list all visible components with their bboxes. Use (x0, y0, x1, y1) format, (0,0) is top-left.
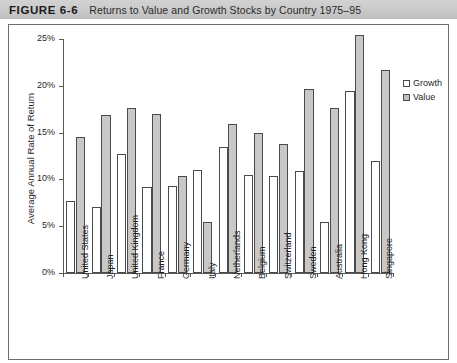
chart-plot-area: Average Annual Rate of Return Growth Val… (9, 25, 450, 361)
figure-number: FIGURE 6-6 (9, 4, 78, 16)
x-tick-mark (215, 273, 216, 277)
legend-label-growth: Growth (413, 77, 442, 89)
x-axis-label-united-kingdom: United Kingdom (130, 215, 140, 279)
legend-swatch-value-icon (403, 94, 410, 101)
bar-growth-sweden (295, 171, 304, 273)
x-tick-mark (291, 273, 292, 277)
bar-growth-united-states (66, 201, 75, 273)
bar-growth-hong-kong (345, 91, 354, 273)
x-tick-mark (114, 273, 115, 277)
legend-item-value: Value (403, 91, 442, 103)
x-tick-mark (139, 273, 140, 277)
bar-growth-singapore (371, 161, 380, 273)
bar-growth-united-kingdom (117, 154, 126, 273)
bar-growth-switzerland (269, 176, 278, 273)
y-tick-label: 20% (21, 80, 55, 90)
bar-growth-germany (168, 186, 177, 273)
chart-legend: Growth Value (403, 77, 442, 105)
x-tick-mark (266, 273, 267, 277)
bar-growth-italy (193, 170, 202, 273)
bar-growth-australia (320, 222, 329, 273)
x-tick-mark (368, 273, 369, 277)
bar-value-france (152, 114, 161, 273)
x-tick-mark (393, 273, 394, 277)
x-axis-label-netherlands: Netherlands (232, 230, 242, 279)
x-tick-mark (63, 273, 64, 277)
legend-item-growth: Growth (403, 77, 442, 89)
bar-growth-netherlands (219, 147, 228, 273)
chart-frame: Average Annual Rate of Return Growth Val… (8, 24, 449, 360)
bar-growth-japan (92, 207, 101, 273)
x-tick-mark (190, 273, 191, 277)
x-tick-mark (241, 273, 242, 277)
legend-swatch-growth-icon (403, 80, 410, 87)
x-tick-mark (342, 273, 343, 277)
y-tick-mark (59, 179, 63, 180)
y-axis-line (63, 39, 64, 273)
x-axis-label-united-states: United States (80, 225, 90, 279)
bar-value-sweden (304, 89, 313, 273)
y-tick-label: 5% (21, 220, 55, 230)
y-tick-mark (59, 86, 63, 87)
x-tick-mark (165, 273, 166, 277)
figure-container: FIGURE 6-6 Returns to Value and Growth S… (0, 0, 457, 363)
bar-growth-belgium (244, 175, 253, 273)
figure-caption-bar: FIGURE 6-6 Returns to Value and Growth S… (0, 0, 457, 19)
y-tick-label: 15% (21, 127, 55, 137)
x-tick-mark (88, 273, 89, 277)
x-tick-mark (317, 273, 318, 277)
y-tick-label: 25% (21, 33, 55, 43)
legend-label-value: Value (413, 91, 435, 103)
y-tick-label: 10% (21, 173, 55, 183)
bar-growth-france (142, 187, 151, 273)
y-tick-mark (59, 39, 63, 40)
y-tick-mark (59, 133, 63, 134)
y-tick-mark (59, 226, 63, 227)
figure-title: Returns to Value and Growth Stocks by Co… (89, 4, 361, 16)
bar-value-japan (101, 115, 110, 273)
y-tick-label: 0% (21, 267, 55, 277)
